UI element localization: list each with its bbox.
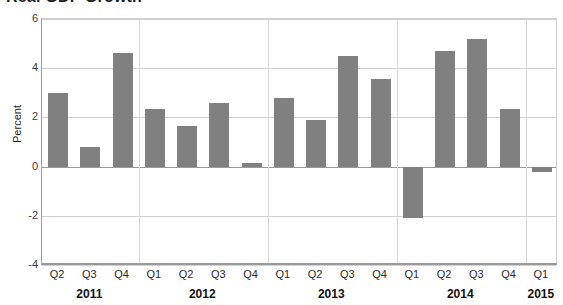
year-separator [268,19,269,264]
bar [80,147,100,167]
x-tick-label: Q4 [372,268,387,280]
x-tick-label: Q3 [211,268,226,280]
x-tick-label: Q2 [437,268,452,280]
gridline [42,216,556,217]
bar [338,56,358,167]
y-axis-title: Percent [11,79,23,169]
zero-line [42,167,556,168]
x-axis-year-label: 2012 [189,287,216,301]
bar [306,120,326,167]
x-tick-label: Q1 [405,268,420,280]
bar [403,167,423,219]
y-tick-label: 6 [2,12,38,24]
bar [209,103,229,167]
gridline [42,265,556,266]
x-tick-label: Q2 [308,268,323,280]
chart-container: Real GDP Growth 6420-2-4 Percent Q2Q3Q4Q… [0,0,563,305]
bar [435,51,455,167]
bar [242,163,262,167]
x-tick-label: Q4 [114,268,129,280]
bar [467,39,487,167]
x-tick-label: Q3 [82,268,97,280]
x-axis-year-label: 2015 [528,287,555,301]
x-axis-year-label: 2014 [447,287,474,301]
bar [48,93,68,167]
x-tick-label: Q2 [50,268,65,280]
x-axis-year-label: 2011 [76,287,102,301]
bar [500,109,520,167]
bar [532,167,552,172]
y-tick-label: -4 [2,258,38,270]
year-separator [526,19,527,264]
bar [274,98,294,167]
x-axis-year-label: 2013 [318,287,345,301]
x-tick-label: Q2 [179,268,194,280]
x-tick-label: Q3 [469,268,484,280]
bar [113,53,133,166]
bar [371,79,391,166]
bar [145,109,165,167]
year-separator [397,19,398,264]
y-tick-label: -2 [2,209,38,221]
x-tick-label: Q1 [147,268,162,280]
x-tick-label: Q4 [243,268,258,280]
gridline [42,19,556,20]
x-axis-line [41,263,557,265]
x-tick-label: Q1 [534,268,549,280]
bar [177,126,197,167]
plot-area [41,18,557,264]
y-tick-label: 4 [2,61,38,73]
x-tick-label: Q3 [340,268,355,280]
x-tick-label: Q4 [501,268,516,280]
year-separator [139,19,140,264]
x-tick-label: Q1 [276,268,291,280]
